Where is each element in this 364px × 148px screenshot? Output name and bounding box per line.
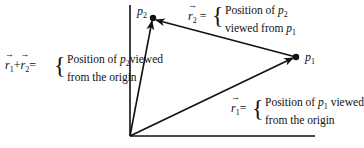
r2-symbol: →r bbox=[188, 9, 193, 23]
r1-desc-line2: from the origin bbox=[265, 114, 364, 128]
sum-vector-b: r bbox=[20, 58, 25, 72]
r2-line1-prefix: Position of bbox=[225, 4, 278, 16]
r2-line2-sub: 1 bbox=[292, 28, 296, 37]
r1-line1-prefix: Position of bbox=[265, 96, 318, 108]
point-p1-sub: 1 bbox=[311, 57, 315, 66]
point-p1-label: p1 bbox=[305, 50, 315, 66]
r1-line1-suffix: viewed bbox=[328, 96, 364, 108]
point-p2-label: p2 bbox=[137, 4, 147, 20]
r2-symbol: →r bbox=[20, 58, 25, 72]
sum-equation: →r1+→r2= bbox=[5, 58, 36, 74]
r1-symbol: →r bbox=[5, 58, 10, 72]
r2-line1-sub: 2 bbox=[284, 10, 288, 19]
sum-brace: { bbox=[54, 53, 66, 77]
r2-line2-prefix: viewed from bbox=[225, 22, 286, 34]
sum-desc-line1: Position of p2viewed bbox=[67, 53, 163, 71]
point-p1-dot bbox=[293, 54, 299, 60]
vector-arrow-icon: → bbox=[231, 92, 240, 102]
vector-arrow-icon: → bbox=[188, 0, 197, 10]
vector-arrow-icon: → bbox=[5, 49, 14, 59]
r2-equation: →r2 = bbox=[188, 9, 206, 25]
point-p2-dot bbox=[150, 15, 156, 21]
vector-arrow-icon: → bbox=[20, 49, 29, 59]
r1-equation: →r1= bbox=[231, 101, 246, 117]
r2-description: Position of p2 viewed from p1 bbox=[225, 4, 296, 40]
r2-sub: 2 bbox=[193, 16, 197, 25]
r2-desc-line1: Position of p2 bbox=[225, 4, 296, 22]
r1-brace: { bbox=[252, 96, 264, 120]
sum-vector-a: r bbox=[5, 58, 10, 72]
sum-description: Position of p2viewed from the origin bbox=[67, 53, 163, 84]
r2-brace: { bbox=[212, 3, 224, 27]
r2-equals: = bbox=[200, 9, 207, 23]
sum-desc-line2: from the origin bbox=[67, 71, 163, 85]
sum-equals: = bbox=[29, 58, 36, 72]
r1-vector: r bbox=[231, 101, 236, 115]
point-p2-sub: 2 bbox=[143, 11, 147, 20]
r1-equals: = bbox=[240, 101, 247, 115]
r1-desc-line1: Position of p1 viewed bbox=[265, 96, 364, 114]
sum-line1-suffix: viewed bbox=[130, 53, 163, 65]
r1-symbol: →r bbox=[231, 101, 236, 115]
r1-description: Position of p1 viewed from the origin bbox=[265, 96, 364, 127]
sum-line1-prefix: Position of bbox=[67, 53, 120, 65]
r2-vector: r bbox=[188, 9, 193, 23]
r2-desc-line2: viewed from p1 bbox=[225, 22, 296, 40]
